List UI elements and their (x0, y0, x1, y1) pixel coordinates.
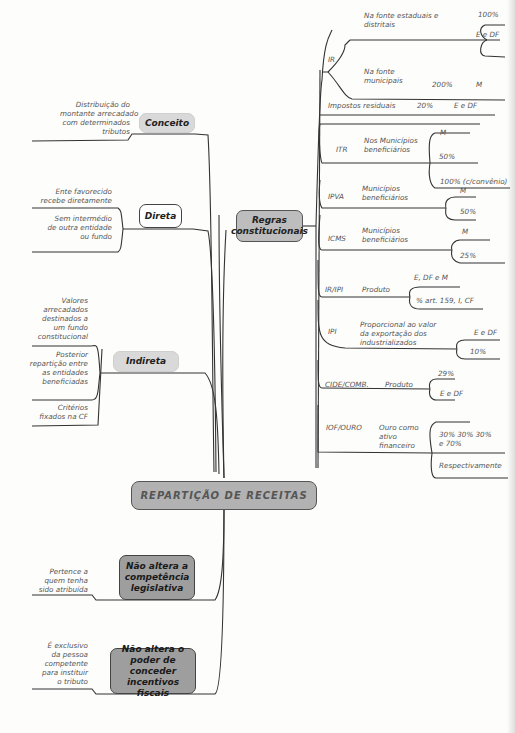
nao-altera-incentivos-node[interactable]: Não altera o poder de conceder incentivo… (110, 648, 196, 694)
ir-estaduais-dest: E e DF (476, 30, 499, 39)
conceito-note: Distribuição do montante arrecadado com … (60, 100, 130, 136)
note-line: ou fundo (32, 232, 112, 241)
node-label-line: poder de conceder (111, 655, 195, 677)
text-line: industrializados (360, 338, 436, 347)
text-line: Nos Municípios (364, 136, 418, 145)
node-label-line: legislativa (131, 583, 184, 594)
text-line: Proporcional ao valor (360, 320, 436, 329)
text-line: ativo (379, 432, 419, 441)
itr-opt2: 100% (c/convênio) (440, 177, 507, 186)
note-line: beneficiadas (22, 377, 88, 386)
note-line: fixados na CF (32, 412, 88, 421)
direta-node[interactable]: Direta (139, 204, 182, 228)
residuais-label: Impostos residuais (328, 101, 395, 110)
node-label-line: Não altera a (126, 561, 188, 572)
note-line: montante arrecadado (60, 109, 130, 118)
text-line: municipais (364, 76, 403, 85)
note-line: recebe diretamente (32, 196, 112, 205)
icms-desc: Municípios beneficiários (362, 226, 408, 244)
conceito-node[interactable]: Conceito (139, 113, 195, 133)
incentivos-note: É exclusivo da pessoa competente para in… (32, 641, 88, 686)
central-node[interactable]: REPARTIÇÃO DE RECEITAS (131, 481, 317, 510)
indireta-note-3: Critérios fixados na CF (32, 403, 88, 421)
iof-pct: 30% 30% 30% e 70% (439, 430, 492, 448)
text-line: beneficiários (364, 145, 418, 154)
note-line: Posterior (22, 350, 88, 359)
text-line: da exportação dos (360, 329, 436, 338)
ipi-label: IPI (328, 327, 337, 336)
note-line: Distribuição do (60, 100, 130, 109)
iof-label: IOF/OURO (326, 423, 362, 432)
note-line: de outra entidade (32, 223, 112, 232)
text-line: Ouro como (379, 423, 419, 432)
note-line: Valores (32, 296, 88, 305)
nao-altera-competencia-node[interactable]: Não altera a competência legislativa (119, 555, 195, 600)
node-label-line: incentivos fiscais (111, 677, 195, 699)
iripi-pct: % art. 159, I, CF (416, 296, 474, 305)
itr-desc: Nos Municípios beneficiários (364, 136, 418, 154)
indireta-node[interactable]: Indireta (113, 351, 179, 372)
cide-label: CIDE/COMB. (325, 380, 369, 389)
icms-dest: M (462, 227, 468, 236)
note-line: as entidades (22, 368, 88, 377)
residuais-pct: 20% (417, 101, 433, 110)
node-label-line: competência (125, 572, 190, 583)
iof-note: Respectivamente (439, 461, 502, 470)
note-line: quem tenha (32, 576, 88, 585)
text-line: beneficiários (362, 193, 408, 202)
itr-dest: M (440, 128, 446, 137)
ipva-desc: Municípios beneficiários (362, 184, 408, 202)
cide-dest: E e DF (440, 389, 463, 398)
iripi-desc: Produto (362, 285, 390, 294)
indireta-note-2: Posterior repartição entre as entidades … (22, 350, 88, 386)
text-line: beneficiários (362, 235, 408, 244)
note-line: É exclusivo (32, 641, 88, 650)
conceito-label: Conceito (145, 118, 189, 129)
ir-municipais-dest: M (476, 80, 482, 89)
residuais-dest: E e DF (454, 101, 477, 110)
text-line: financeiro (379, 441, 419, 450)
direta-label: Direta (145, 211, 176, 222)
iripi-dest: E, DF e M (414, 273, 448, 282)
text-line: Na fonte (364, 67, 403, 76)
note-line: Sem intermédio (32, 214, 112, 223)
direta-note-2: Sem intermédio de outra entidade ou fund… (32, 214, 112, 241)
cide-desc: Produto (385, 380, 413, 389)
ipi-desc: Proporcional ao valor da exportação dos … (360, 320, 436, 347)
ipi-pct: 10% (470, 347, 486, 356)
ir-municipais-pct: 200% (432, 80, 453, 89)
text-line: Municípios (362, 226, 408, 235)
note-line: tributos (60, 127, 130, 136)
note-line: arrecadados (32, 305, 88, 314)
itr-opt1: 50% (439, 152, 455, 161)
cide-pct: 29% (438, 369, 454, 378)
ir-label: IR (328, 55, 335, 64)
node-label-line: constitucionais (231, 226, 308, 237)
ipi-dest: E e DF (474, 328, 497, 337)
central-label: REPARTIÇÃO DE RECEITAS (140, 490, 307, 501)
direta-note-1: Ente favorecido recebe diretamente (32, 187, 112, 205)
text-line: distritais (364, 20, 438, 29)
note-line: sido atribuída (32, 585, 88, 594)
note-line: com determinados (60, 118, 130, 127)
ipva-label: IPVA (328, 192, 344, 201)
regras-constitucionais-node[interactable]: Regras constitucionais (236, 210, 303, 242)
iof-desc: Ouro como ativo financeiro (379, 423, 419, 450)
node-label-line: Não altera o (122, 644, 184, 655)
note-line: Critérios (32, 403, 88, 412)
note-line: um fundo (32, 323, 88, 332)
icms-pct: 25% (460, 251, 476, 260)
note-line: repartição entre (22, 359, 88, 368)
text-line: 30% 30% 30% (439, 430, 492, 439)
ipva-pct: 50% (460, 207, 476, 216)
text-line: Na fonte estaduais e (364, 11, 438, 20)
itr-label: ITR (336, 145, 348, 154)
indireta-label: Indireta (126, 356, 166, 367)
note-line: competente (32, 659, 88, 668)
indireta-note-1: Valores arrecadados destinados a um fund… (32, 296, 88, 341)
note-line: da pessoa (32, 650, 88, 659)
note-line: Pertence a (32, 567, 88, 576)
note-line: constitucional (32, 332, 88, 341)
ir-fonte-municipais: Na fonte municipais (364, 67, 403, 85)
note-line: o tributo (32, 677, 88, 686)
